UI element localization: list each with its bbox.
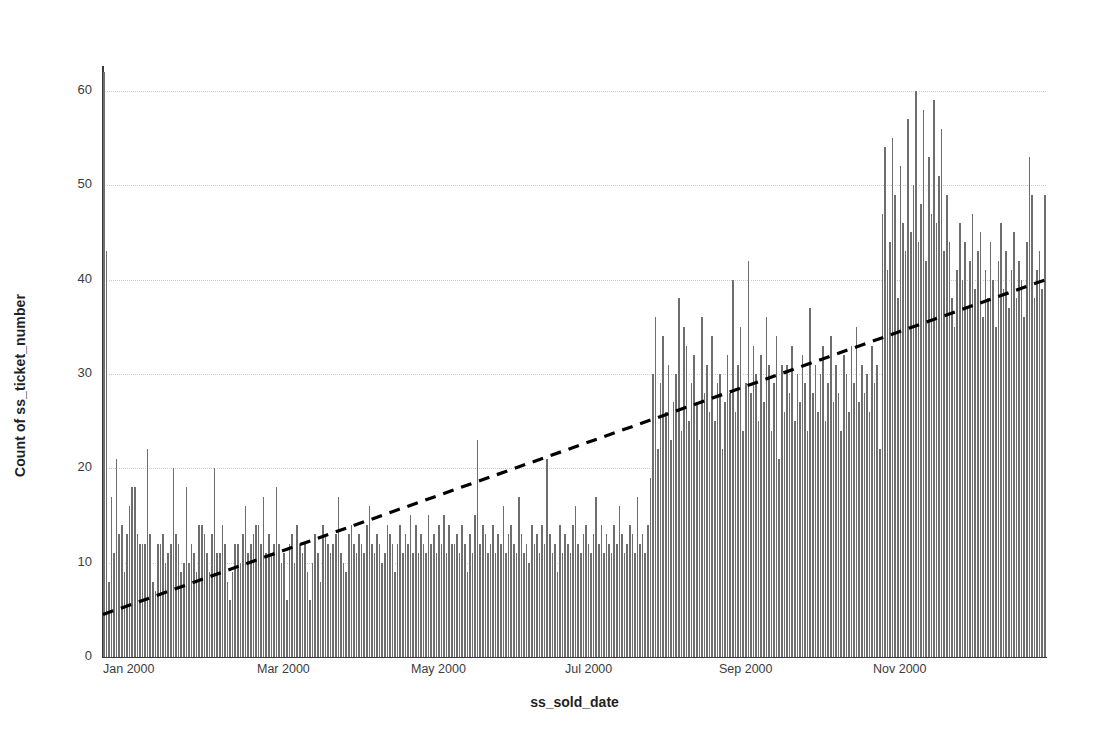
bar-series — [103, 72, 1046, 657]
y-tick-label: 60 — [46, 82, 92, 97]
y-tick-label: 40 — [46, 271, 92, 286]
chart-container: Count of ss_ticket_number 0102030405060 … — [0, 0, 1094, 731]
x-tick-label: May 2000 — [411, 662, 466, 676]
y-tick-label: 10 — [46, 554, 92, 569]
x-axis-spine — [103, 657, 1047, 658]
x-tick-label: Jan 2000 — [103, 662, 154, 676]
y-tick-label: 30 — [46, 365, 92, 380]
bar — [1044, 195, 1047, 657]
x-tick-label: Nov 2000 — [873, 662, 927, 676]
plot-area — [103, 72, 1046, 657]
y-tick-label: 20 — [46, 459, 92, 474]
x-tick-label: Sep 2000 — [719, 662, 773, 676]
x-tick-label: Jul 2000 — [565, 662, 612, 676]
x-axis-title: ss_sold_date — [103, 694, 1046, 710]
x-tick-label: Mar 2000 — [257, 662, 310, 676]
y-tick-label: 50 — [46, 176, 92, 191]
y-tick-label: 0 — [46, 648, 92, 663]
